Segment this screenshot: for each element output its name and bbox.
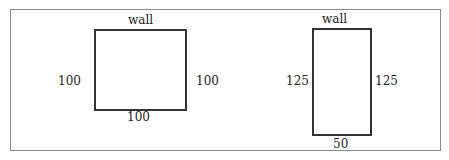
left-rectangle — [94, 29, 187, 111]
right-side-label-left: 125 — [286, 74, 309, 88]
right-side-label-right: 125 — [375, 74, 398, 88]
left-side-label-right: 100 — [196, 74, 219, 88]
left-bottom-label: 100 — [127, 110, 150, 124]
left-side-label-left: 100 — [58, 74, 81, 88]
left-wall-label: wall — [128, 13, 153, 27]
right-rectangle — [312, 28, 372, 136]
right-bottom-label: 50 — [333, 137, 348, 151]
right-wall-label: wall — [322, 12, 347, 26]
